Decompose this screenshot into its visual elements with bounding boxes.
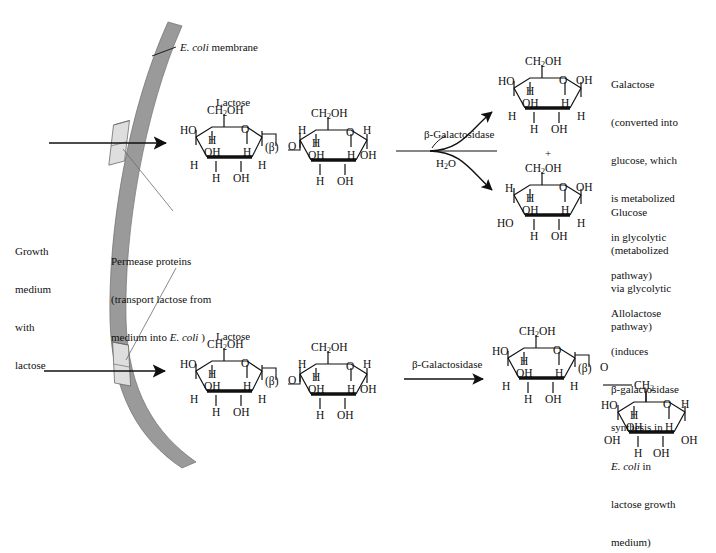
water-label-top: H2O [436,157,456,171]
lactose-top-r-ch2oh: CH2OH [311,107,348,121]
lactose-bottom-oh-bottom: OH [233,406,250,419]
galactose-h-left: H [508,110,516,123]
lactose-top-ch2oh: CH2OH [207,104,244,118]
galactose-h-bottom: H [530,123,538,136]
lactose-top-r-inner-oh: OH [308,149,325,162]
lactose-top-r-oh-right: OH [360,149,377,162]
molecule-allolactose-ring-upper [508,335,575,393]
molecule-galactose [514,65,581,123]
lactose-bottom-h-left: H [190,393,198,406]
growth-medium-line-2: medium [15,283,51,296]
lactose-top-beta-link: (β) [265,141,279,154]
lactose-bottom-ch2oh: CH2OH [207,338,244,352]
lactose-bottom-r-inner-h2: H [347,383,355,396]
lactose-bottom-r-ring-o: O [346,360,354,373]
galactose-oh-bottom: OH [551,123,568,136]
molecule-lactose-bottom-ring-right [300,351,367,409]
reaction-arrows-top [396,112,497,190]
lactose-top-r-h-upper-right: H [363,124,371,137]
lactose-top-ho: HO [180,124,197,137]
allolactose-ch2oh: CH2OH [519,325,556,339]
allolactose-inner-oh-upper: OH [516,367,533,380]
permease-line-3: medium into E. coli ) [111,331,211,344]
lactose-top-h-bottom: H [212,172,220,185]
enzyme-label-bottom: β-Galactosidase [412,358,482,371]
growth-medium-line-4: lactose [15,359,51,372]
lactose-bottom-ring-o: O [241,357,249,370]
lactose-bottom-r-oh-right: OH [360,383,377,396]
molecule-glucose [514,172,581,230]
galactose-inner-oh: OH [522,97,539,110]
lactose-bottom-r-ch2oh: CH2OH [311,341,348,355]
growth-medium-label: Growth medium with lactose [15,219,51,398]
glucose-ho-left: HO [497,217,514,230]
lactose-top-r-ring-o: O [346,126,354,139]
lactose-bottom-r-upper-left-h: H [298,358,306,371]
glucose-h-bottom: H [530,230,538,243]
lactose-bottom-r-inner-oh: OH [308,383,325,396]
galactose-ho: HO [498,75,515,88]
allolactose-name: Allolactose [611,307,679,320]
lactose-top-inner-h2: H [243,146,251,159]
lactose-top-oh-bottom: OH [233,172,250,185]
galactose-inner-h2: H [561,97,569,110]
permease-line-1: Permease proteins [111,255,211,268]
permease-ecoli-italic: E. coli [170,331,199,343]
lactose-bottom-link-o: O [288,374,296,387]
allolactose-description: Allolactose (induces β-galactosidase syn… [611,281,679,553]
lactose-bottom-inner-h2: H [243,380,251,393]
allolactose-h-right-upper: H [570,380,578,393]
galactose-ring-o: O [559,74,567,87]
lactose-top-inner-oh: OH [204,146,221,159]
allolactose-h-upper-right-lower: H [681,398,689,411]
plus-sign: + [545,147,551,160]
allolactose-inner-h2-upper: H [555,367,563,380]
lactose-bottom-r-h-upper-right: H [363,358,371,371]
lactose-bottom-ho: HO [180,358,197,371]
allolactose-oh-bottom-upper: OH [545,393,562,406]
growth-medium-line-3: with [15,321,51,334]
allolactose-link-o: O [600,361,608,374]
allolactose-oh-right-lower: OH [681,434,698,447]
galactose-h-right: H [577,110,585,123]
glucose-ch2oh: CH2OH [525,162,562,176]
lactose-top-r-upper-left-h: H [298,124,306,137]
lactose-top-link-o: O [288,140,296,153]
glucose-name: Glucose [611,206,671,219]
lactose-bottom-r-h-bottom: H [316,409,324,422]
lactose-top-h-right: H [258,159,266,172]
glucose-upper-left-h: H [505,182,513,195]
molecule-lactose-top-ring-left [196,114,262,172]
lactose-bottom-r-oh-bottom: OH [337,409,354,422]
molecule-lactose-top-ring-right [300,117,367,175]
glucose-anomeric-oh: OH [576,181,593,194]
lactose-top-ring-o: O [241,123,249,136]
lactose-top-r-h-bottom: H [316,175,324,188]
galactose-name: Galactose [611,78,678,91]
lactose-top-h-left: H [190,159,198,172]
lactose-bottom-h-right: H [258,393,266,406]
lactose-top-r-inner-h2: H [347,149,355,162]
lactose-bottom-beta-link: (β) [265,375,279,388]
allolactose-ring-o-upper: O [553,344,561,357]
enzyme-label-top: β-Galactosidase [424,128,494,141]
membrane-label: E. coli membrane [180,41,258,54]
allolactose-ecoli-line: E. coli in [611,460,679,473]
growth-medium-line-1: Growth [15,245,51,258]
galactose-anomeric-oh: OH [576,74,593,87]
permease-line-2: (transport lactose from [111,293,211,306]
membrane-label-italic: E. coli [180,41,209,53]
glucose-ring-o: O [559,181,567,194]
allolactose-ho-upper: HO [492,345,509,358]
allolactose-h-left-upper: H [502,380,510,393]
allolactose-h-bottom-upper: H [524,393,532,406]
lactose-bottom-h-bottom: H [212,406,220,419]
permease-label: Permease proteins (transport lactose fro… [111,229,211,369]
glucose-h-right: H [577,217,585,230]
glucose-inner-oh: OH [522,204,539,217]
lactose-bottom-inner-oh: OH [204,380,221,393]
glucose-inner-h2: H [561,204,569,217]
glucose-oh-bottom: OH [551,230,568,243]
membrane-label-rest: membrane [209,41,258,53]
